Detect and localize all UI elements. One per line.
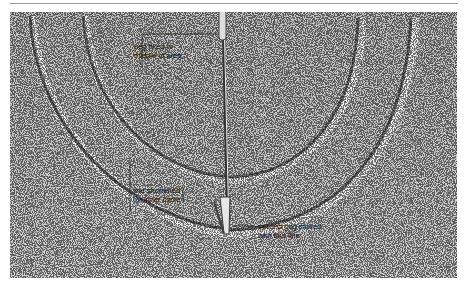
scene-illustration [10, 12, 457, 278]
photo-surface: peg fixed in middle of area line shorten… [10, 12, 457, 278]
annotation-text: with taut line. [258, 231, 302, 240]
annotation-text: middle of area [134, 51, 182, 60]
annotation-text: for inner circle [133, 195, 180, 204]
annotation-second-peg: second peg moved with taut line. [258, 223, 321, 240]
top-rule [10, 3, 458, 4]
annotation-peg-fixed: peg fixed in middle of area [134, 43, 182, 60]
annotation-line-shortened: line shortened for inner circle [133, 187, 180, 204]
fixed-peg-icon [219, 12, 226, 40]
